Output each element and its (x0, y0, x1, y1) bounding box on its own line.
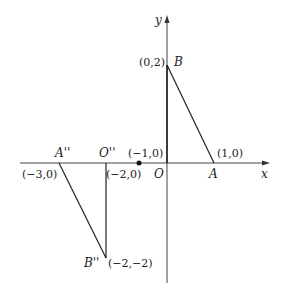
y-axis-arrow-icon (165, 15, 170, 23)
x-axis-arrow-icon (262, 161, 270, 166)
point-A2-label: A'' (54, 146, 70, 160)
point-B2-label: B'' (83, 256, 99, 270)
x-axis-label: x (261, 167, 268, 181)
segment-BA (167, 65, 214, 163)
segment-A2B2 (59, 163, 106, 258)
origin-label: O (154, 167, 164, 181)
point-B-coord: (0,2) (139, 56, 165, 69)
point-A-coord: (1,0) (217, 147, 243, 160)
point-B2-coord: (−2,−2) (108, 257, 153, 270)
center-point-coord: (−1,0) (128, 147, 163, 160)
y-axis-label: y (154, 13, 162, 27)
point-A2-coord: (−3,0) (22, 168, 57, 181)
point-A-label: A (208, 167, 218, 181)
point-B-label: B (173, 55, 183, 69)
point-O2-label: O'' (99, 146, 115, 160)
point-O2-coord: (−2,0) (106, 168, 141, 181)
center-point (137, 161, 142, 166)
coordinate-diagram: y x O (0,2) B (1,0) A (−1,0) A'' (−3,0) … (0, 0, 287, 298)
